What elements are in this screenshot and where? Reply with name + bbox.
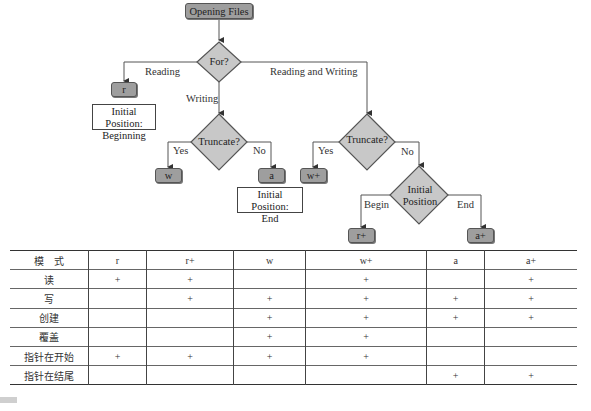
- edge-label-reading-and-writing: Reading and Writing: [270, 66, 357, 78]
- table-row-overwrite: 覆盖 + +: [10, 327, 577, 346]
- header-w: w: [234, 251, 306, 270]
- table-cell: [485, 346, 577, 365]
- table-cell: +: [89, 346, 147, 365]
- table-cell: [89, 327, 147, 346]
- table-cell: +: [427, 289, 485, 308]
- table-row-write: 写 + + + + +: [10, 289, 577, 308]
- note-end-line1: Initial Position:: [238, 189, 302, 213]
- note-initial-position-beginning: Initial Position: Beginning: [92, 104, 156, 130]
- table-cell: [146, 308, 233, 327]
- table-cell: +: [306, 346, 427, 365]
- table-cell: +: [89, 270, 147, 289]
- table-row-pointer-start: 指针在开始 + + + +: [10, 346, 577, 365]
- edge-label-writing: Writing: [186, 93, 218, 105]
- table-cell: +: [146, 270, 233, 289]
- table-cell: [89, 289, 147, 308]
- edge-label-begin: Begin: [364, 199, 389, 211]
- table-cell: +: [234, 289, 306, 308]
- table-cell: +: [485, 366, 577, 385]
- table-cell: [89, 366, 147, 385]
- table-cell: +: [427, 366, 485, 385]
- table-header-row: 模 式 r r+ w w+ a a+: [10, 251, 577, 270]
- table-cell: +: [306, 327, 427, 346]
- edge-label-yes-1: Yes: [173, 145, 188, 157]
- table-row-create: 创建 + + + +: [10, 308, 577, 327]
- table-cell: +: [234, 327, 306, 346]
- table-cell: [306, 366, 427, 385]
- file-mode-flowchart: Opening Files For? Reading Writing Readi…: [0, 0, 591, 250]
- header-r-plus: r+: [146, 251, 233, 270]
- note-beginning-line2: Beginning: [93, 130, 155, 142]
- table-cell: [146, 366, 233, 385]
- row-label: 读: [10, 270, 89, 289]
- table-row-pointer-end: 指针在结尾 + +: [10, 366, 577, 385]
- note-end-line2: End: [238, 213, 302, 225]
- decision-for-label: For?: [199, 56, 239, 68]
- table-cell: [89, 308, 147, 327]
- row-label: 创建: [10, 308, 89, 327]
- decision-truncate-rw-label: Truncate?: [337, 134, 397, 146]
- table-cell: [485, 327, 577, 346]
- table-cell: +: [146, 346, 233, 365]
- header-mode: 模 式: [10, 251, 89, 270]
- decision-position-line2: Position: [392, 196, 448, 208]
- table-cell: +: [485, 289, 577, 308]
- table-cell: +: [234, 308, 306, 327]
- mode-node-r: r: [111, 82, 137, 97]
- mode-node-w: w: [155, 168, 182, 183]
- row-label: 写: [10, 289, 89, 308]
- file-mode-table: 模 式 r r+ w w+ a a+ 读 + + + + 写 + + + + +…: [10, 250, 577, 385]
- table-cell: +: [485, 308, 577, 327]
- decision-position-line1: Initial: [392, 184, 448, 196]
- table-cell: [427, 346, 485, 365]
- table-cell: +: [146, 289, 233, 308]
- table-cell: [146, 327, 233, 346]
- header-a: a: [427, 251, 485, 270]
- table-cell: +: [306, 308, 427, 327]
- note-beginning-line1: Initial Position:: [93, 106, 155, 130]
- decision-truncate-write-label: Truncate?: [189, 136, 249, 148]
- table-cell: [234, 366, 306, 385]
- header-a-plus: a+: [485, 251, 577, 270]
- row-label: 覆盖: [10, 327, 89, 346]
- decision-position-label: Initial Position: [392, 184, 448, 208]
- header-w-plus: w+: [306, 251, 427, 270]
- edge-label-no-1: No: [253, 145, 266, 157]
- row-label: 指针在开始: [10, 346, 89, 365]
- mode-node-r-plus: r+: [348, 228, 375, 243]
- table-cell: +: [234, 346, 306, 365]
- note-initial-position-end: Initial Position: End: [237, 187, 303, 213]
- edge-label-reading: Reading: [145, 66, 180, 78]
- mode-node-a-plus: a+: [467, 228, 494, 243]
- table-cell: +: [485, 270, 577, 289]
- table-cell: +: [306, 270, 427, 289]
- mode-node-w-plus: w+: [300, 168, 327, 183]
- table-cell: [427, 270, 485, 289]
- table-cell: +: [306, 289, 427, 308]
- edge-label-end: End: [457, 199, 474, 211]
- row-label: 指针在结尾: [10, 366, 89, 385]
- table-cell: +: [427, 308, 485, 327]
- table-cell: [234, 270, 306, 289]
- table-cell: [427, 327, 485, 346]
- page-marker: [0, 397, 17, 403]
- edge-label-no-2: No: [401, 146, 414, 158]
- edge-label-yes-2: Yes: [318, 145, 333, 157]
- mode-node-a: a: [258, 168, 285, 183]
- header-r: r: [89, 251, 147, 270]
- table-row-read: 读 + + + +: [10, 270, 577, 289]
- start-node-opening-files: Opening Files: [185, 3, 253, 19]
